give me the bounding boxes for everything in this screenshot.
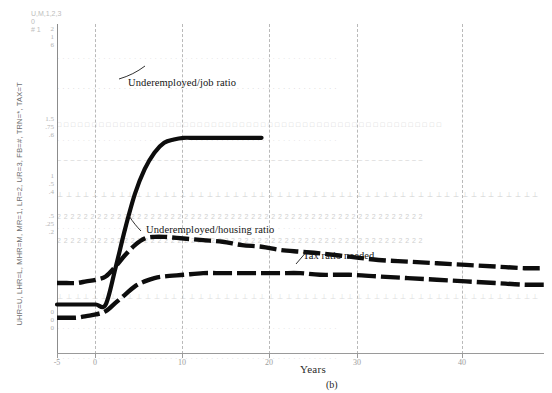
x-tick-label-2: 10 — [178, 358, 186, 367]
y-tick-label-2-2: .4 — [26, 188, 54, 196]
x-tick-label-5: 40 — [458, 358, 466, 367]
annotation-tax-ratio-needed: Tax ratio needed — [303, 250, 374, 261]
x-tick-label-4: 30 — [353, 358, 361, 367]
y-tick-label-0-2: 6 — [26, 41, 54, 49]
y-tick-cluster-2: 1.5.4 — [26, 172, 54, 196]
corner-key-line-1: U,M,1,2,3 — [31, 10, 61, 18]
y-tick-label-2-0: 1 — [26, 172, 54, 180]
panel-caption: (b) — [326, 379, 338, 390]
series-underemployed-housing-ratio — [57, 237, 544, 284]
y-tick-cluster-4: 000 — [26, 308, 54, 332]
y-tick-label-3-1: .25 — [26, 220, 54, 228]
y-tick-label-0-1: 1 — [26, 33, 54, 41]
y-tick-label-1-0: 1.5 — [26, 115, 54, 123]
marker-row-11: · · · · · · · · · · · · · · · · · · · · … — [57, 354, 544, 363]
x-axis-title: Years — [300, 363, 326, 375]
plot-area: · · · · · · · · · · · · · · · · · · · · … — [57, 24, 544, 354]
y-tick-label-1-2: .6 — [26, 131, 54, 139]
y-tick-label-1-1: .75 — [26, 123, 54, 131]
x-tick-label-0: -5 — [54, 358, 61, 367]
y-tick-label-4-0: 0 — [26, 308, 54, 316]
y-tick-label-4-1: 0 — [26, 316, 54, 324]
series-tax-ratio-needed — [57, 273, 544, 318]
y-tick-cluster-0: 216 — [26, 25, 54, 49]
y-tick-cluster-1: 1.5.75.6 — [26, 115, 54, 139]
data-curves — [57, 24, 544, 354]
annotation-underemployed-housing-ratio: Underemployed/housing ratio — [146, 224, 274, 235]
y-tick-label-4-2: 0 — [26, 324, 54, 332]
y-tick-label-2-1: .5 — [26, 180, 54, 188]
x-tick-label-1: 0 — [93, 358, 97, 367]
y-tick-cluster-3: .5.25.2 — [26, 212, 54, 236]
annotation-underemployed-job-ratio: Underemployed/job ratio — [128, 77, 236, 88]
leader-line-housing-ratio — [129, 216, 141, 231]
y-tick-label-0-0: 2 — [26, 25, 54, 33]
figure-panel-b: UHR=U, LHR=L, MHR=M, MR=1, LR=2, UR=3, F… — [0, 0, 552, 393]
y-tick-label-3-2: .2 — [26, 228, 54, 236]
x-tick-label-3: 20 — [265, 358, 273, 367]
y-axis-description: UHR=U, LHR=L, MHR=M, MR=1, LR=2, UR=3, F… — [15, 96, 24, 326]
y-tick-label-3-0: .5 — [26, 212, 54, 220]
